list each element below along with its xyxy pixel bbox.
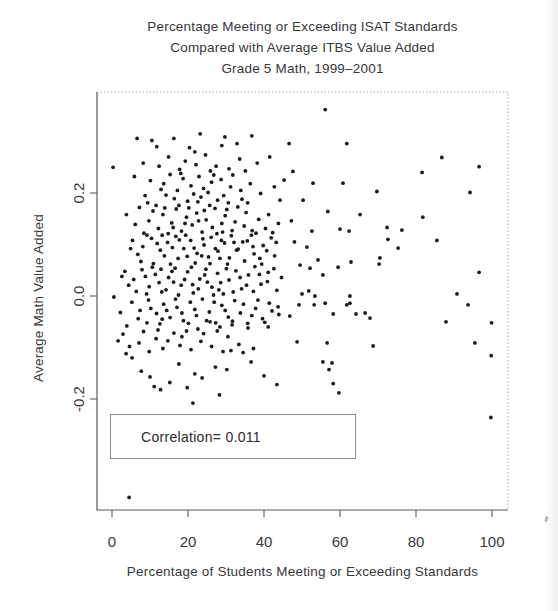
data-point	[261, 317, 265, 321]
data-point	[174, 234, 178, 238]
data-point	[219, 178, 223, 182]
data-point	[155, 242, 159, 246]
data-point	[191, 283, 195, 287]
data-point	[227, 278, 231, 282]
data-point	[193, 150, 197, 154]
data-point	[127, 283, 131, 287]
data-point	[180, 229, 184, 233]
data-point	[253, 265, 257, 269]
data-point	[120, 275, 124, 279]
data-point	[270, 309, 274, 313]
data-point	[354, 312, 358, 316]
data-point	[326, 210, 330, 214]
data-point	[195, 211, 199, 215]
data-point	[199, 195, 203, 199]
data-point	[192, 192, 196, 196]
data-point	[298, 263, 302, 267]
data-point	[127, 496, 131, 500]
data-point	[256, 298, 260, 302]
data-point	[130, 300, 134, 304]
data-point	[223, 135, 227, 139]
data-point	[371, 344, 375, 348]
y-tick-label: 0.0	[70, 286, 87, 307]
data-point	[218, 325, 222, 329]
y-tick-label: -0.2	[70, 386, 87, 412]
data-point	[266, 280, 270, 284]
data-point	[130, 356, 134, 360]
data-point	[168, 173, 172, 177]
data-point	[249, 360, 253, 364]
data-point	[237, 343, 241, 347]
data-point	[152, 262, 156, 266]
data-point	[138, 309, 142, 313]
data-point	[420, 171, 424, 175]
data-point	[435, 239, 439, 243]
data-point	[193, 261, 197, 265]
data-point	[178, 167, 182, 171]
data-point	[244, 211, 248, 215]
data-point	[166, 241, 170, 245]
data-point	[129, 247, 133, 251]
data-point	[295, 340, 299, 344]
data-point	[233, 299, 237, 303]
data-point	[213, 207, 217, 211]
data-point	[225, 267, 229, 271]
data-point	[190, 265, 194, 269]
data-point	[216, 198, 220, 202]
data-point	[123, 269, 127, 273]
data-point	[170, 221, 174, 225]
data-point	[327, 368, 331, 372]
data-point	[160, 233, 164, 237]
data-point	[257, 217, 261, 221]
data-point	[147, 298, 151, 302]
data-point	[345, 303, 349, 307]
data-point	[207, 255, 211, 259]
data-point	[220, 222, 224, 226]
data-point	[280, 276, 284, 280]
data-point	[165, 309, 169, 313]
data-point	[310, 229, 314, 233]
data-point	[197, 175, 201, 179]
data-point	[386, 237, 390, 241]
data-point	[230, 229, 234, 233]
data-point	[155, 145, 159, 149]
data-point	[144, 275, 148, 279]
data-point	[208, 320, 212, 324]
data-point	[214, 321, 218, 325]
data-point	[477, 270, 481, 274]
data-point	[195, 251, 199, 255]
data-point	[235, 142, 239, 146]
data-point	[368, 316, 372, 320]
data-point	[338, 227, 342, 231]
data-point	[177, 204, 181, 208]
x-tick-label: 20	[180, 533, 197, 550]
data-point	[312, 303, 316, 307]
y-tick-label: 0.2	[70, 183, 87, 204]
data-point	[489, 354, 493, 358]
data-point	[159, 388, 163, 392]
data-point	[116, 339, 120, 343]
data-point	[440, 156, 444, 160]
x-tick-label: 80	[408, 533, 425, 550]
data-point	[218, 257, 222, 261]
data-point	[385, 226, 389, 230]
data-point	[187, 321, 191, 325]
data-point	[193, 372, 197, 376]
data-point	[466, 303, 470, 307]
data-point	[141, 161, 145, 165]
data-point	[252, 347, 256, 351]
data-point	[198, 277, 202, 281]
data-point	[273, 254, 277, 258]
data-point	[142, 330, 146, 334]
data-point	[400, 228, 404, 232]
data-point	[177, 362, 181, 366]
data-point	[206, 191, 210, 195]
data-point	[178, 344, 182, 348]
data-point	[226, 262, 230, 266]
data-point	[151, 209, 155, 213]
data-point	[158, 322, 162, 326]
data-point	[171, 226, 175, 230]
data-point	[220, 303, 224, 307]
data-point	[146, 201, 150, 205]
data-point	[347, 229, 351, 233]
